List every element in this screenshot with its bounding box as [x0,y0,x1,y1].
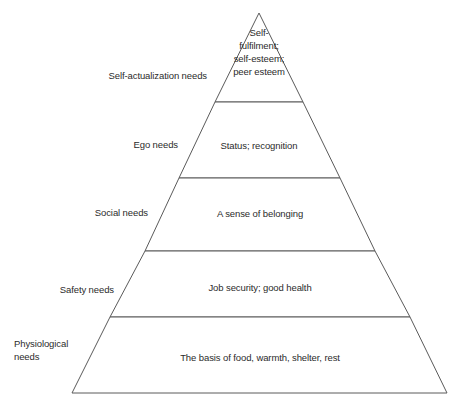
pyramid-graphic: Self-fulfilment;self-esteem;peer esteemS… [0,0,470,413]
tier-2-side-label: Ego needs [133,139,178,150]
tier-3-content: A sense of belonging [217,208,303,219]
tier-5-content-line-1: The basis of food, warmth, shelter, rest [180,352,340,363]
tier-3-side-label: Social needs [95,207,149,218]
tier-5-side-label-line-1: Physiological [14,337,68,348]
tier-4-content: Job security; good health [208,282,311,293]
hierarchy-of-needs-diagram: Self-fulfilment;self-esteem;peer esteemS… [0,0,470,413]
tier-4-side-label: Safety needs [60,284,115,295]
tier-3-side-label-line-1: Social needs [95,207,149,218]
tier-1-content-line-1: Self- [249,26,268,37]
tier-1-side-label: Self-actualization needs [109,70,208,81]
tier-5-content: The basis of food, warmth, shelter, rest [180,352,340,363]
tier-5-side-label: Physiologicalneeds [14,337,68,361]
tier-1-content-line-3: self-esteem; [234,52,285,63]
tier-1-content-line-4: peer esteem [233,65,285,76]
tier-5-side-label-line-2: needs [14,350,40,361]
tier-1-content-line-2: fulfilment; [239,39,279,50]
tier-4-content-line-1: Job security; good health [208,282,311,293]
tier-1-side-label-line-1: Self-actualization needs [109,70,208,81]
tier-2-content: Status; recognition [221,140,298,151]
tier-2-content-line-1: Status; recognition [221,140,298,151]
tier-2-side-label-line-1: Ego needs [133,139,178,150]
tier-4-side-label-line-1: Safety needs [60,284,115,295]
tier-3-content-line-1: A sense of belonging [217,208,303,219]
